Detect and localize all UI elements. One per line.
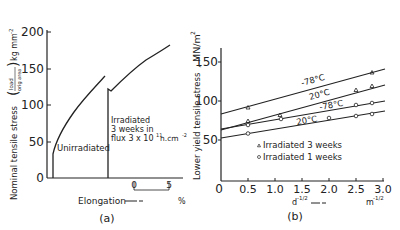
- irradiated-label-line1: Irradiated: [111, 116, 150, 125]
- legend-circle-icon: [258, 156, 261, 159]
- label-minus78-3wk: -78°C: [300, 72, 326, 88]
- panel-b-xtick-1.0: 1.0: [266, 183, 284, 196]
- panel-a-x-label: Elongation: [78, 196, 126, 206]
- panel-a-ytick-50: 50: [29, 135, 44, 149]
- svg-text:-1/2: -1/2: [297, 195, 308, 201]
- unirradiated-curve: [53, 76, 105, 178]
- legend-1wk-label: Irradiated 1 weeks: [263, 152, 343, 162]
- panel-a-ytick-200: 200: [21, 25, 44, 39]
- paren-close: ): [5, 62, 21, 67]
- panel-a-y-label-unit: kg mm: [10, 33, 19, 61]
- svg-text:2: 2: [189, 31, 196, 35]
- label-minus78-1wk: -78°C: [319, 98, 345, 112]
- scale-bar-start: 0: [131, 180, 137, 190]
- panel-b-y-label: Lower yield tensile stress , MN/m 2: [189, 31, 202, 180]
- panel-b-xtick-2.5: 2.5: [347, 183, 365, 196]
- panel-a-y-label-unit-exp: -2: [8, 29, 14, 34]
- irradiated-curve: [108, 45, 170, 178]
- panel-a-ytick-150: 150: [21, 62, 44, 76]
- irradiated-label-line2: 3 weeks in: [111, 125, 154, 134]
- scale-bar-end: 5: [166, 180, 172, 190]
- panel-a-caption: (a): [99, 212, 114, 225]
- svg-text:flux 3 x 10: flux 3 x 10: [111, 134, 153, 143]
- panel-a-y-label-frac-den: orig area: [16, 69, 23, 91]
- panel-a-y-label: Nominal tensile stress ( load orig area …: [5, 29, 23, 200]
- panel-b-xtick-0.5: 0.5: [239, 183, 257, 196]
- panel-a-ytick-0: 0: [36, 171, 44, 185]
- panel-a-y-label-main: Nominal tensile stress: [9, 105, 19, 200]
- unirradiated-label: Unirradiated: [57, 143, 110, 153]
- svg-text:n.cm: n.cm: [160, 134, 179, 143]
- panel-b-caption: (b): [287, 210, 303, 223]
- panel-b: 150 100 50 0 0.5 1.0 1.5 2.0 2.5 3.0 Low…: [189, 31, 392, 223]
- panel-a: 200 150 100 50 0 Nominal tensile stress …: [5, 25, 187, 225]
- panel-b-origin: 0: [215, 182, 223, 196]
- panel-b-xtick-2.0: 2.0: [320, 183, 338, 196]
- svg-text:MN/m: MN/m: [191, 34, 202, 62]
- svg-text:-2: -2: [182, 132, 187, 138]
- panel-b-ytick-50: 50: [203, 133, 218, 147]
- svg-text:Lower yield tensile stress: Lower yield tensile stress: [192, 72, 202, 180]
- irradiated-label-line3: flux 3 x 10 11 n.cm -2: [111, 132, 187, 143]
- panel-a-y-label-frac-num: load: [8, 78, 14, 90]
- panel-a-x-unit: %: [178, 197, 186, 206]
- elongation-scale-bar: [134, 182, 169, 190]
- legend-3wk-label: Irradiated 3 weeks: [263, 140, 343, 150]
- comma: ,: [192, 65, 202, 68]
- svg-text:-1/2: -1/2: [373, 195, 384, 201]
- panel-a-ytick-100: 100: [21, 98, 44, 112]
- legend-triangle-icon: [258, 144, 261, 147]
- figure-canvas: 200 150 100 50 0 Nominal tensile stress …: [0, 0, 400, 230]
- panel-b-x-label: d -1/2 m -1/2: [292, 195, 384, 207]
- legend: Irradiated 3 weeks Irradiated 1 weeks: [258, 140, 343, 162]
